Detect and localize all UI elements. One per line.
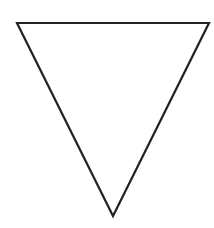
- triangle-drawing: [0, 0, 214, 228]
- figure-canvas: [0, 0, 214, 228]
